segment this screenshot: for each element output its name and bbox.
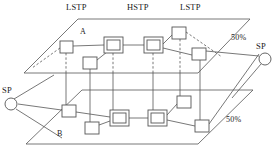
link-spleft-to-a <box>14 75 54 99</box>
link-spright-diag <box>209 54 259 124</box>
node-a-hstp-1-inner <box>107 40 120 50</box>
sp-right-node[interactable] <box>259 53 271 65</box>
node-a-lstp-top[interactable] <box>172 27 186 39</box>
link-a-hstp2-lstptop <box>163 35 172 44</box>
link-a-hstp2-lstpright <box>163 48 192 55</box>
node-a-sub-left[interactable] <box>83 57 97 69</box>
label-lstp-right: LSTP <box>180 2 201 12</box>
node-b-lstp-right[interactable] <box>195 120 209 132</box>
node-b-lstp-left[interactable] <box>62 105 76 117</box>
label-hstp-center: HSTP <box>127 2 149 12</box>
label-sp-left: SP <box>2 85 12 95</box>
node-b-lstp-top[interactable] <box>177 96 191 108</box>
link-b-lstpleft-hstp1 <box>76 112 110 117</box>
label-percent-bottom: 50% <box>226 115 241 124</box>
label-plane-a: A <box>80 27 86 36</box>
sp-left-node[interactable] <box>5 98 17 110</box>
link-b-sub-hstp1 <box>99 121 110 125</box>
label-plane-b: B <box>57 129 63 138</box>
label-lstp-left: LSTP <box>66 2 87 12</box>
label-sp-right: SP <box>256 41 266 51</box>
node-a-lstp-left[interactable] <box>60 41 73 53</box>
sp-links <box>14 51 261 138</box>
node-b-sub-left[interactable] <box>85 122 99 134</box>
link-spright-to-a <box>206 51 259 56</box>
node-b-hstp-2-inner <box>151 113 164 123</box>
plane-a-outline <box>24 19 250 73</box>
node-a-lstp-right[interactable] <box>192 48 206 60</box>
link-b-hstp2-lstpright <box>167 120 195 126</box>
link-spleft-to-b2 <box>16 109 62 138</box>
label-percent-top: 50% <box>231 33 246 42</box>
link-b-hstp2-lstptop <box>167 104 177 115</box>
link-spright-to-b <box>232 64 261 98</box>
link-a-lstpleft-hstp1 <box>73 45 104 46</box>
plane-b-nodes <box>62 96 209 134</box>
node-b-hstp-1-inner <box>113 113 126 123</box>
node-a-hstp-2-inner <box>147 40 160 50</box>
network-topology-diagram <box>0 0 277 158</box>
diagram-canvas: LSTP HSTP LSTP A B SP SP 50% 50% <box>0 0 277 158</box>
